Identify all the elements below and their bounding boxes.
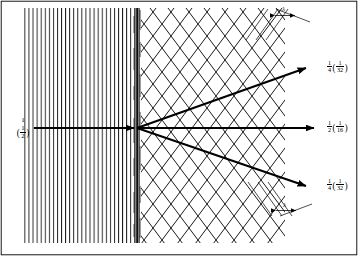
paren-open: ( — [333, 61, 336, 72]
paren-open: ( — [17, 127, 20, 138]
up-amplitude-fraction: 14 — [327, 60, 332, 74]
straight-intensity-fraction: 116 — [336, 120, 344, 134]
right-crosshatch-lattice — [141, 8, 285, 243]
paren-close: ) — [345, 179, 348, 190]
incident-beam-intensity: (12) — [12, 125, 34, 139]
left-vertical-lines — [22, 8, 136, 243]
incident-beam-amplitude: 1 — [12, 117, 34, 124]
output-beam-up-label: 14(132) — [327, 60, 348, 74]
lambda-top-symbol: λ — [282, 6, 285, 13]
straight-amplitude-fraction: 12 — [327, 120, 332, 134]
lambda-bottom-symbol: λ — [283, 202, 286, 209]
output-beam-straight-label: 12(116) — [327, 120, 348, 134]
output-beam-down-label: 14(132) — [327, 178, 348, 192]
paren-open: ( — [333, 121, 336, 132]
down-amplitude-fraction: 14 — [327, 178, 332, 192]
paren-close: ) — [26, 127, 29, 138]
up-intensity-fraction: 132 — [336, 60, 344, 74]
paren-close: ) — [345, 61, 348, 72]
paren-close: ) — [345, 121, 348, 132]
down-intensity-fraction: 132 — [336, 178, 344, 192]
diagram-canvas — [0, 0, 358, 256]
paren-open: ( — [333, 179, 336, 190]
incident-intensity-fraction: 12 — [20, 125, 25, 139]
incident-beam-label: 1 (12) — [12, 117, 34, 139]
figure-container: 1 (12) 14(132) 12(116) 14(132) λ λ — [0, 0, 358, 256]
